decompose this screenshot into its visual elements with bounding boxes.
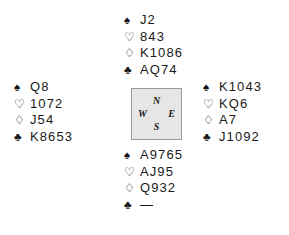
south-clubs: — <box>140 197 153 214</box>
north-diamonds: K1086 <box>140 45 183 62</box>
compass-label-east: E <box>168 109 175 119</box>
west-clubs: K8653 <box>30 129 73 146</box>
north-spade-row: ♠ J2 <box>124 12 183 29</box>
compass-box: N W E S <box>131 88 182 140</box>
north-diamond-row: ♢ K1086 <box>124 45 183 62</box>
south-diamond-row: ♢ Q932 <box>124 180 183 197</box>
west-spades: Q8 <box>30 79 50 96</box>
east-hearts: KQ6 <box>219 96 248 113</box>
heart-icon: ♡ <box>203 96 219 113</box>
south-club-row: ♣ — <box>124 197 183 214</box>
spade-icon: ♠ <box>124 147 140 164</box>
hand-north: ♠ J2 ♡ 843 ♢ K1086 ♣ AQ74 <box>124 12 183 78</box>
south-diamonds: Q932 <box>140 180 176 197</box>
north-clubs: AQ74 <box>140 62 178 79</box>
west-club-row: ♣ K8653 <box>14 129 73 146</box>
heart-icon: ♡ <box>14 96 30 113</box>
south-spade-row: ♠ A9765 <box>124 147 183 164</box>
east-diamonds: A7 <box>219 112 237 129</box>
north-hearts: 843 <box>140 29 165 46</box>
east-club-row: ♣ J1092 <box>203 129 262 146</box>
compass-label-west: W <box>138 109 147 119</box>
diamond-icon: ♢ <box>203 112 219 129</box>
spade-icon: ♠ <box>14 79 30 96</box>
north-club-row: ♣ AQ74 <box>124 62 183 79</box>
south-spades: A9765 <box>140 147 183 164</box>
west-spade-row: ♠ Q8 <box>14 79 73 96</box>
west-heart-row: ♡ 1072 <box>14 96 73 113</box>
spade-icon: ♠ <box>203 79 219 96</box>
east-diamond-row: ♢ A7 <box>203 112 262 129</box>
east-heart-row: ♡ KQ6 <box>203 96 262 113</box>
north-spades: J2 <box>140 12 156 29</box>
hand-west: ♠ Q8 ♡ 1072 ♢ J54 ♣ K8653 <box>14 79 73 145</box>
east-clubs: J1092 <box>219 129 260 146</box>
club-icon: ♣ <box>14 129 30 146</box>
south-hearts: AJ95 <box>140 164 174 181</box>
heart-icon: ♡ <box>124 29 140 46</box>
diamond-icon: ♢ <box>124 45 140 62</box>
diamond-icon: ♢ <box>124 180 140 197</box>
club-icon: ♣ <box>124 62 140 79</box>
north-heart-row: ♡ 843 <box>124 29 183 46</box>
hand-east: ♠ K1043 ♡ KQ6 ♢ A7 ♣ J1092 <box>203 79 262 145</box>
east-spade-row: ♠ K1043 <box>203 79 262 96</box>
west-diamonds: J54 <box>30 112 54 129</box>
club-icon: ♣ <box>124 197 140 214</box>
compass-label-north: N <box>132 96 181 106</box>
south-heart-row: ♡ AJ95 <box>124 164 183 181</box>
west-diamond-row: ♢ J54 <box>14 112 73 129</box>
east-spades: K1043 <box>219 79 262 96</box>
west-hearts: 1072 <box>30 96 63 113</box>
heart-icon: ♡ <box>124 164 140 181</box>
spade-icon: ♠ <box>124 12 140 29</box>
compass-label-south: S <box>132 122 181 132</box>
hand-south: ♠ A9765 ♡ AJ95 ♢ Q932 ♣ — <box>124 147 183 213</box>
bridge-deal-diagram: ♠ J2 ♡ 843 ♢ K1086 ♣ AQ74 ♠ Q8 ♡ 1072 ♢ … <box>0 0 289 235</box>
club-icon: ♣ <box>203 129 219 146</box>
diamond-icon: ♢ <box>14 112 30 129</box>
